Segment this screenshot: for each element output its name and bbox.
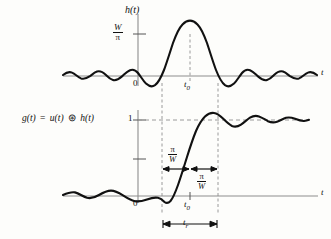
- convolution-operator-icon: ⊛: [66, 112, 78, 123]
- equation-equals: =: [38, 113, 47, 123]
- bottom-center-label-sub: 0: [187, 204, 191, 212]
- right-half-arrow-head-start: [191, 167, 197, 172]
- top-x-axis-label: t: [321, 68, 324, 77]
- right-half-numerator: π: [197, 172, 206, 181]
- risetime-arrow: [163, 220, 217, 228]
- left-half-arrow-head-start: [163, 167, 169, 172]
- top-y-tick-denominator: π: [113, 32, 123, 42]
- bottom-plot-group: [63, 110, 318, 203]
- bottom-origin-label: 0: [133, 199, 138, 208]
- convolution-equation: g(t) = u(t) ⊛ h(t): [22, 113, 94, 124]
- risetime-head-right: [210, 221, 217, 227]
- bottom-y-tick-label: 1: [128, 114, 133, 123]
- bottom-x-axis-label: t: [321, 188, 324, 197]
- equation-lhs: g(t): [22, 113, 36, 123]
- left-half-arrow-head-end: [183, 167, 189, 172]
- top-origin-label: 0: [133, 79, 138, 88]
- right-half-denominator: W: [197, 181, 206, 191]
- bottom-center-label: t0: [184, 200, 190, 212]
- right-half-arrow-head-end: [211, 167, 217, 172]
- left-half-numerator: π: [168, 145, 177, 154]
- top-y-tick-label: W π: [113, 23, 123, 42]
- equation-rhs-second: h(t): [80, 113, 94, 123]
- equation-rhs-first: u(t): [50, 113, 64, 123]
- top-center-label: t0: [184, 80, 190, 92]
- top-y-tick-numerator: W: [113, 23, 123, 32]
- figure-container: h(t) W π 0 t0 t g(t) = u(t) ⊛ h(t) 1 0 t…: [0, 0, 331, 239]
- risetime-head-left: [163, 221, 170, 227]
- left-half-risetime-label: π W: [168, 145, 177, 163]
- top-y-axis-label: h(t): [125, 5, 139, 15]
- risetime-label: tr: [183, 218, 188, 230]
- step-response-curve: [63, 113, 309, 203]
- risetime-label-sub: r: [186, 222, 189, 230]
- right-half-risetime-label: π W: [197, 172, 206, 190]
- top-center-label-sub: 0: [187, 84, 191, 92]
- left-half-denominator: W: [168, 154, 177, 164]
- top-plot-group: [63, 14, 318, 86]
- half-risetime-arrows: [163, 167, 217, 172]
